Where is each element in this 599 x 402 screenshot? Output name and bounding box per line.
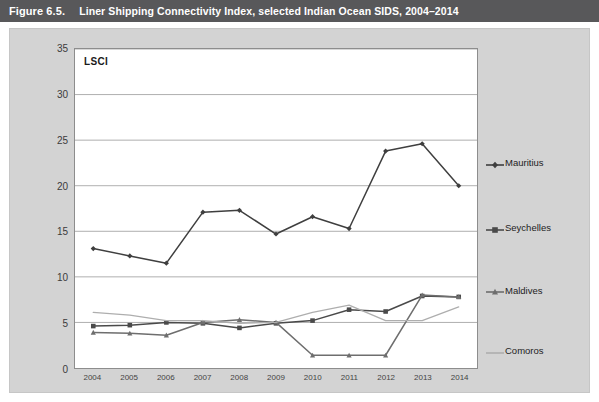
y-axis-tick: 5	[42, 318, 68, 329]
x-axis-tick: 2013	[414, 373, 432, 382]
figure-container: Figure 6.5. Liner Shipping Connectivity …	[0, 0, 599, 402]
x-axis-tick: 2014	[451, 373, 469, 382]
x-axis-tick: 2004	[83, 373, 101, 382]
data-point-marker	[310, 214, 315, 219]
y-axis-tick: 25	[42, 134, 68, 145]
data-point-marker	[383, 309, 388, 314]
data-point-marker	[347, 226, 352, 231]
y-axis-labels: 05101520253035	[34, 48, 68, 369]
x-axis-tick: 2006	[157, 373, 175, 382]
chart-svg	[75, 49, 477, 368]
legend-item-maldives: Maldives	[486, 284, 543, 296]
data-point-marker	[127, 253, 132, 258]
x-axis-tick: 2008	[230, 373, 248, 382]
chart-panel: 05101520253035 LSCI 20042005200620072008…	[9, 28, 590, 393]
data-point-marker	[383, 148, 388, 153]
data-point-marker	[91, 246, 96, 251]
chart-legend: MauritiusSeychellesMaldivesComoros	[486, 48, 586, 369]
legend-label: Comoros	[505, 345, 544, 356]
legend-item-comoros: Comoros	[486, 345, 544, 357]
y-axis-tick: 0	[42, 364, 68, 375]
series-line-mauritius	[93, 144, 458, 263]
figure-number: Figure 6.5.	[9, 5, 65, 17]
legend-triangle-icon	[486, 284, 504, 296]
plot-area: LSCI	[74, 48, 478, 369]
data-point-marker	[347, 307, 352, 312]
x-axis-tick: 2011	[341, 373, 358, 382]
x-axis-tick: 2010	[304, 373, 322, 382]
legend-label: Maldives	[505, 285, 543, 296]
x-axis-tick: 2007	[194, 373, 212, 382]
x-axis-labels: 2004200520062007200820092010201120122013…	[74, 373, 478, 389]
x-axis-tick: 2012	[377, 373, 395, 382]
data-point-marker	[237, 326, 242, 331]
x-axis-tick: 2009	[267, 373, 285, 382]
legend-label: Seychelles	[505, 222, 551, 233]
y-axis-tick: 30	[42, 88, 68, 99]
y-axis-tick: 15	[42, 226, 68, 237]
legend-square-icon	[486, 222, 504, 234]
data-point-marker	[310, 318, 315, 323]
data-point-marker	[128, 323, 133, 328]
legend-item-mauritius: Mauritius	[486, 157, 544, 169]
data-point-marker	[91, 324, 96, 329]
legend-line-icon	[486, 345, 504, 357]
legend-diamond-icon	[486, 157, 504, 169]
figure-title: Liner Shipping Connectivity Index, selec…	[79, 5, 459, 17]
legend-label: Mauritius	[505, 157, 544, 168]
legend-item-seychelles: Seychelles	[486, 222, 551, 234]
y-axis-tick: 10	[42, 272, 68, 283]
x-axis-tick: 2005	[120, 373, 138, 382]
y-axis-tick: 35	[42, 43, 68, 54]
figure-header: Figure 6.5. Liner Shipping Connectivity …	[0, 0, 599, 22]
y-axis-tick: 20	[42, 180, 68, 191]
